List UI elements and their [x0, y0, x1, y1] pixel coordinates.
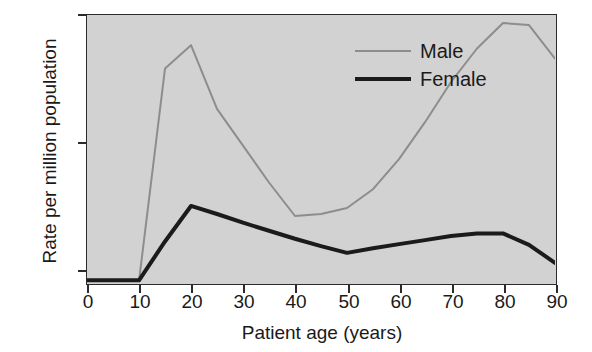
legend-item-female: Female: [355, 65, 487, 93]
legend-label-female: Female: [420, 68, 487, 91]
y-tick-mark-200: [78, 142, 86, 144]
x-tick-label-30: 30: [224, 291, 264, 313]
x-tick-label-70: 70: [433, 291, 473, 313]
x-tick-label-60: 60: [381, 291, 421, 313]
x-tick-label-10: 10: [120, 291, 160, 313]
series-line-female: [87, 206, 555, 280]
x-tick-label-0: 0: [68, 291, 108, 313]
legend-item-male: Male: [355, 37, 487, 65]
x-tick-label-40: 40: [276, 291, 316, 313]
x-tick-label-50: 50: [329, 291, 369, 313]
legend-line-icon-male: [355, 50, 411, 52]
x-axis-label: Patient age (years): [86, 322, 558, 344]
chart-legend: Male Female: [355, 37, 487, 93]
x-tick-label-80: 80: [485, 291, 525, 313]
y-axis-label: Rate per million population: [39, 6, 61, 296]
y-tick-mark-0: [78, 270, 86, 272]
y-tick-mark-400: [78, 14, 86, 16]
x-tick-label-20: 20: [172, 291, 212, 313]
x-tick-label-90: 90: [537, 291, 577, 313]
legend-line-icon-female: [355, 77, 411, 81]
chart-figure: Rate per million population 400 200 0 0 …: [0, 0, 592, 352]
legend-label-male: Male: [420, 40, 463, 63]
plot-area: Male Female: [86, 14, 557, 285]
